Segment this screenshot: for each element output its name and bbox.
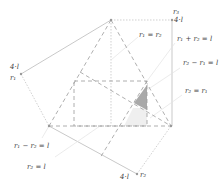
axis-r2: [49, 126, 137, 174]
label-r3-axis: r₃: [173, 9, 179, 16]
label-eq-r2-minus-r1: r₂ − r₁ = l: [183, 60, 218, 67]
label-bottom-r2: r₂: [140, 172, 146, 179]
label-eq-r1-plus-r2: r₁ + r₂ = l: [177, 36, 212, 43]
diagram-canvas: r₃ 4·l 4·l r₁ 4·l r₂ r₁ = r₂ r₁ + r₂ = l…: [0, 0, 221, 192]
light-shaded-region: [124, 108, 147, 126]
label-bottom-4l: 4·l: [120, 174, 129, 181]
label-top-4l: 4·l: [174, 17, 183, 24]
guide-lines: [42, 37, 182, 157]
pyramid-edges: [49, 20, 171, 158]
dark-shaded-triangle: [134, 85, 147, 110]
label-left-r1: r₁: [10, 75, 16, 82]
projection-lines: [21, 20, 172, 174]
axis-r1: [21, 20, 111, 74]
label-eq-r1-r2: r₁ = r₂: [139, 32, 162, 39]
label-eq-r1-minus-r2: r₁ − r₂ = l: [14, 143, 49, 150]
label-left-4l: 4·l: [10, 64, 19, 71]
label-eq-r2-l: r₂ = l: [27, 164, 46, 171]
label-eq-r2-r1: r₂ = r₁: [185, 88, 208, 95]
